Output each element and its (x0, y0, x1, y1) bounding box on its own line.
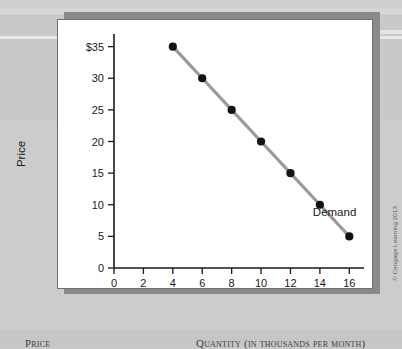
x-tick-label: 10 (255, 277, 267, 288)
data-point-marker (228, 106, 236, 114)
x-tick-label: 2 (140, 277, 146, 288)
y-tick-label: 20 (92, 136, 104, 148)
x-tick-label: 8 (229, 277, 235, 288)
y-tick-label: 25 (92, 104, 104, 116)
data-point-marker (169, 43, 177, 51)
table-header-quantity: Quantity (in thousands per month) (196, 337, 365, 349)
y-tick-label: 10 (92, 199, 104, 211)
x-tick-label: 14 (314, 277, 326, 288)
data-point-marker (286, 169, 294, 177)
data-point-marker (345, 232, 353, 240)
y-tick-label: $35 (86, 41, 104, 53)
x-tick-label: 6 (199, 277, 205, 288)
data-point-marker (198, 74, 206, 82)
y-axis-title-text: Price (15, 132, 27, 176)
y-tick-label: 30 (92, 72, 104, 84)
demand-curve-chart: 051015202530$35 0246810121416 Demand Qua… (58, 20, 372, 288)
x-tick-label: 12 (284, 277, 296, 288)
x-tick-label: 4 (170, 277, 176, 288)
x-tick-label: 0 (111, 277, 117, 288)
x-tick-label: 16 (343, 277, 355, 288)
figure-credit-text: © Cengage Learning 2013 (391, 198, 398, 290)
x-tick-group: 0246810121416 (111, 268, 355, 288)
figure-panel: 051015202530$35 0246810121416 Demand Qua… (57, 19, 373, 289)
demand-series-label: Demand (313, 206, 356, 218)
table-header-price: Price (25, 337, 50, 349)
figure-credit: © Cengage Learning 2013 (388, 196, 400, 288)
y-tick-label: 5 (98, 230, 104, 242)
y-tick-label: 0 (98, 262, 104, 274)
y-axis-title: Price (13, 128, 29, 188)
y-tick-group: 051015202530$35 (86, 41, 114, 274)
y-tick-label: 15 (92, 167, 104, 179)
data-point-marker (257, 137, 265, 145)
